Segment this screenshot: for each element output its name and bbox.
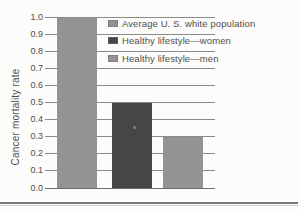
legend-row-1: Average U. S. white population: [108, 17, 255, 29]
y-tick-label: 0.9: [12, 29, 43, 40]
y-tick-label: 0.4: [12, 114, 43, 125]
page-divider-rule-shadow: [0, 205, 298, 206]
y-tick-label: 0.2: [12, 148, 43, 159]
scan-speck-artifact: [133, 126, 136, 129]
legend-swatch-icon: [108, 55, 118, 62]
legend-swatch-icon: [108, 37, 118, 44]
legend-row-2: Healthy lifestyle—women: [108, 35, 231, 47]
y-tick-label: 0.8: [12, 46, 43, 57]
legend-row-3: Healthy lifestyle—men: [108, 52, 219, 64]
y-tick-label: 0.3: [12, 131, 43, 142]
y-tick-label: 1.0: [12, 12, 43, 23]
cancer-mortality-bar-chart-figure: Cancer mortality rate 1.00.90.80.70.60.5…: [0, 0, 298, 212]
y-tick-label: 0.7: [12, 63, 43, 74]
x-axis-baseline: [45, 188, 215, 190]
y-tick-label: 0.5: [12, 97, 43, 108]
page-divider-rule: [0, 202, 298, 204]
y-tick-label: 0.6: [12, 80, 43, 91]
legend-label: Average U. S. white population: [122, 18, 255, 29]
legend-label: Healthy lifestyle—men: [122, 53, 219, 64]
y-tick-label: 0.1: [12, 165, 43, 176]
legend-label: Healthy lifestyle—women: [122, 35, 231, 46]
plot-area: 1.00.90.80.70.60.50.40.30.20.10.0Average…: [0, 0, 298, 212]
bar-2: [112, 103, 152, 188]
bar-1: [57, 18, 97, 189]
y-tick-label: 0.0: [12, 183, 43, 194]
bar-3: [163, 137, 203, 188]
legend-swatch-icon: [108, 20, 118, 27]
